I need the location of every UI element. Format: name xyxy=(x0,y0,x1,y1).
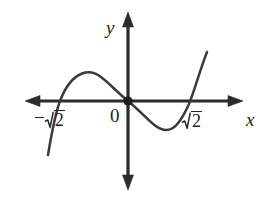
radicand-value: 2 xyxy=(191,111,202,131)
radicand-value: 2 xyxy=(54,110,65,130)
y-axis-label: y xyxy=(106,18,114,37)
radical-sqrt2-positive: 2 xyxy=(182,111,202,131)
x-axis-label: x xyxy=(246,110,254,129)
y-axis-down-arrowhead xyxy=(123,175,134,190)
x-intercept-label-negative-sqrt2: − 2 xyxy=(34,108,65,130)
figure-container: y x 0 − 2 2 xyxy=(0,0,274,200)
x-axis-right-arrowhead xyxy=(228,96,243,107)
radical-hook-icon xyxy=(182,112,191,129)
y-axis-up-arrowhead xyxy=(123,12,134,27)
origin-label: 0 xyxy=(110,106,120,125)
plot-canvas xyxy=(0,0,274,200)
origin-point-marker xyxy=(123,96,132,105)
x-axis-left-arrowhead xyxy=(25,96,40,107)
minus-sign-glyph: − xyxy=(34,108,45,127)
radical-hook-icon xyxy=(45,111,54,128)
x-intercept-label-positive-sqrt2: 2 xyxy=(182,111,202,131)
radical-sqrt2-negative: 2 xyxy=(45,110,65,130)
